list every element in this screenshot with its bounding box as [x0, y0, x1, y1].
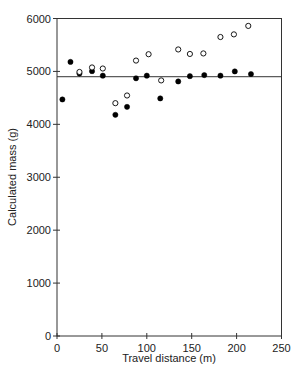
- open-circle-marker: [133, 58, 138, 63]
- open-circle-marker: [124, 93, 129, 98]
- y-tick-label: 6000: [27, 13, 51, 25]
- filled-circle-marker: [113, 112, 118, 117]
- x-tick-label: 200: [227, 342, 245, 354]
- open-circle-marker: [218, 34, 223, 39]
- open-circle-marker: [146, 52, 151, 57]
- filled-circle-marker: [202, 73, 207, 78]
- series-filled: [60, 59, 254, 117]
- open-circle-marker: [246, 23, 251, 28]
- filled-circle-marker: [187, 74, 192, 79]
- open-circle-marker: [100, 66, 105, 71]
- y-tick-label: 4000: [27, 118, 51, 130]
- filled-circle-marker: [100, 73, 105, 78]
- filled-circle-marker: [158, 96, 163, 101]
- filled-circle-marker: [133, 76, 138, 81]
- filled-circle-marker: [68, 59, 73, 64]
- open-circle-marker: [187, 51, 192, 56]
- y-tick-label: 2000: [27, 224, 51, 236]
- y-tick-label: 3000: [27, 171, 51, 183]
- filled-circle-marker: [232, 69, 237, 74]
- series-open: [77, 23, 251, 105]
- y-axis-ticks: 0100020003000400050006000: [27, 13, 60, 343]
- filled-circle-marker: [60, 97, 65, 102]
- open-circle-marker: [231, 32, 236, 37]
- open-circle-marker: [77, 69, 82, 74]
- y-axis-title: Calculated mass (g): [6, 128, 18, 226]
- scatter-chart: 050100150200250 010002000300040005000600…: [0, 0, 300, 381]
- open-circle-marker: [201, 51, 206, 56]
- data-series: [60, 23, 254, 117]
- x-tick-label: 0: [54, 342, 60, 354]
- open-circle-marker: [176, 47, 181, 52]
- y-tick-label: 0: [45, 330, 51, 342]
- x-tick-label: 250: [272, 342, 290, 354]
- x-tick-label: 50: [96, 342, 108, 354]
- y-tick-label: 1000: [27, 277, 51, 289]
- y-tick-label: 5000: [27, 65, 51, 77]
- open-circle-marker: [159, 78, 164, 83]
- filled-circle-marker: [218, 73, 223, 78]
- x-axis-title: Travel distance (m): [122, 352, 216, 364]
- open-circle-marker: [89, 65, 94, 70]
- filled-circle-marker: [144, 73, 149, 78]
- filled-circle-marker: [176, 79, 181, 84]
- filled-circle-marker: [248, 71, 253, 76]
- filled-circle-marker: [124, 104, 129, 109]
- open-circle-marker: [113, 101, 118, 106]
